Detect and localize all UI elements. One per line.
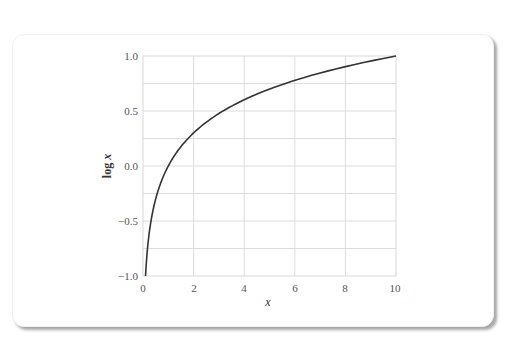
y-axis-label-log: log [100,160,114,178]
chart: 1.0 0.5 0.0 −0.5 −1.0 0 2 4 6 8 10 x log… [0,0,516,346]
y-tick-label: −1.0 [118,270,138,282]
y-tick-label: 0.0 [124,160,138,172]
x-tick-label: 0 [140,282,146,294]
y-axis-label-var: x [100,154,114,161]
x-tick-label: 8 [342,282,348,294]
x-tick-label: 2 [191,282,197,294]
y-axis-label: log x [100,154,114,178]
x-tick-label: 4 [241,282,247,294]
y-tick-label: 0.5 [124,105,138,117]
y-tick-label: 1.0 [124,50,138,62]
x-axis-label: x [264,295,271,309]
x-tick-label: 10 [390,282,402,294]
y-tick-label: −0.5 [118,215,138,227]
x-tick-label: 6 [292,282,298,294]
